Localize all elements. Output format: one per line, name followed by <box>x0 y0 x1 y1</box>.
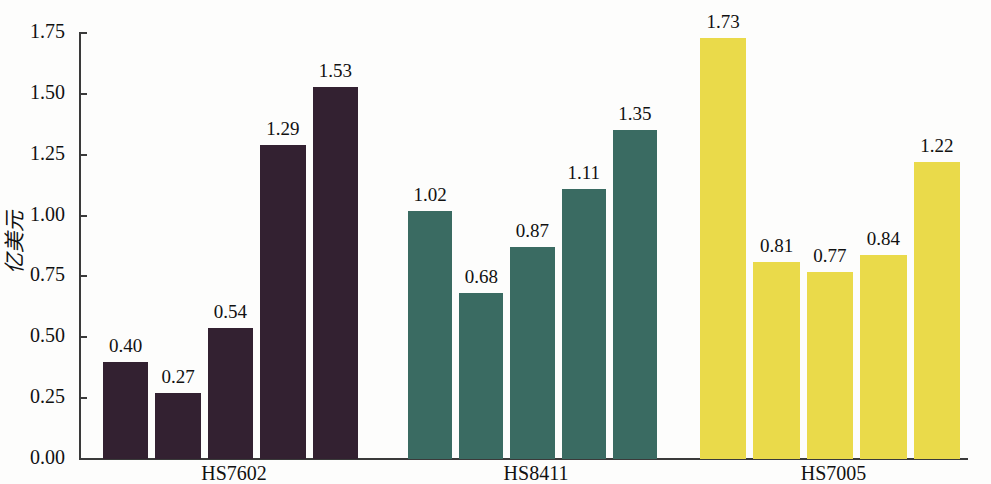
y-tick-label: 0.00 <box>30 446 65 469</box>
y-axis-line <box>79 33 81 460</box>
bar-value-label: 0.68 <box>465 266 498 288</box>
bar-value-label: 0.54 <box>214 301 247 323</box>
bar-value-label: 1.02 <box>413 184 446 206</box>
y-tick-label: 0.75 <box>30 263 65 286</box>
y-tick-mark <box>79 275 87 277</box>
bar-value-label: 1.11 <box>567 162 600 184</box>
y-tick-mark <box>79 93 87 95</box>
bar-value-label: 0.81 <box>760 235 793 257</box>
y-tick-label: 1.75 <box>30 20 65 43</box>
bar-value-label: 1.35 <box>618 103 651 125</box>
y-tick-mark <box>79 397 87 399</box>
bar-value-label: 0.77 <box>813 245 846 267</box>
bar: 0.77 <box>807 272 853 459</box>
bar: 1.53 <box>313 87 358 459</box>
bar: 0.81 <box>753 262 799 459</box>
x-axis-category-label: HS8411 <box>408 462 664 484</box>
x-axis-category-label: HS7005 <box>700 462 967 484</box>
y-tick-mark <box>79 336 87 338</box>
bar: 1.22 <box>914 162 960 459</box>
bar: 1.73 <box>700 38 746 459</box>
bar-value-label: 0.87 <box>516 220 549 242</box>
bar: 0.68 <box>459 293 503 459</box>
y-tick-label: 0.50 <box>30 324 65 347</box>
bar: 1.29 <box>260 145 305 459</box>
y-axis-title: 亿美元 <box>0 0 26 484</box>
y-tick-mark <box>79 32 87 34</box>
y-tick-mark <box>79 154 87 156</box>
bar: 0.54 <box>208 328 253 459</box>
bar: 0.84 <box>860 255 906 459</box>
y-tick-label: 0.25 <box>30 385 65 408</box>
x-axis-category-label: HS7602 <box>103 462 365 484</box>
y-tick-mark <box>79 215 87 217</box>
bar: 0.40 <box>103 362 148 459</box>
bar: 0.27 <box>155 393 200 459</box>
bar: 0.87 <box>510 247 554 459</box>
bar-value-label: 1.73 <box>707 11 740 33</box>
bar-value-label: 0.84 <box>867 228 900 250</box>
y-tick-mark <box>79 458 87 460</box>
bar-value-label: 0.27 <box>161 366 194 388</box>
bar-value-label: 1.22 <box>920 135 953 157</box>
y-tick-label: 1.25 <box>30 142 65 165</box>
y-tick-label: 1.00 <box>30 203 65 226</box>
bar-value-label: 1.29 <box>266 118 299 140</box>
bar: 1.35 <box>613 130 657 459</box>
bar: 1.11 <box>562 189 606 459</box>
bar-value-label: 1.53 <box>319 60 352 82</box>
bar-chart: 亿美元 0.000.250.500.751.001.251.501.75 0.4… <box>0 0 991 484</box>
y-tick-label: 1.50 <box>30 81 65 104</box>
bar: 1.02 <box>408 211 452 459</box>
bar-value-label: 0.40 <box>109 335 142 357</box>
